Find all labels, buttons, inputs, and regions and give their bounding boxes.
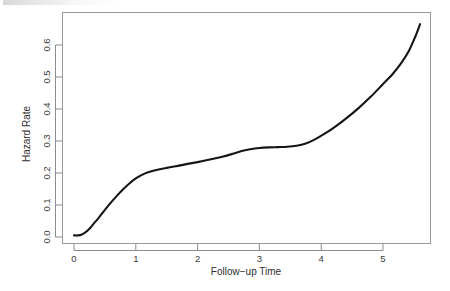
x-tick-label: 3	[257, 253, 262, 264]
plot-frame	[63, 13, 431, 244]
x-tick-label: 1	[133, 253, 138, 264]
y-axis-title: Hazard Rate	[21, 105, 32, 162]
y-tick-label: 0.2	[41, 166, 52, 179]
x-tick-label: 0	[71, 253, 76, 264]
x-tick-label: 4	[319, 253, 324, 264]
x-axis-title: Follow−up Time	[211, 266, 282, 277]
y-axis: 0.00.10.20.30.40.50.6	[41, 38, 63, 243]
x-tick-labels: 012345	[71, 253, 385, 264]
y-tick-marks	[56, 45, 63, 237]
y-tick-label: 0.1	[41, 198, 52, 211]
y-tick-label: 0.0	[41, 230, 52, 243]
y-tick-label: 0.6	[41, 38, 52, 51]
y-tick-label: 0.5	[41, 70, 52, 83]
x-tick-label: 2	[195, 253, 200, 264]
y-tick-label: 0.4	[41, 102, 52, 115]
y-tick-labels: 0.00.10.20.30.40.50.6	[41, 38, 52, 243]
plot-canvas: 0.00.10.20.30.40.50.6 012345 Hazard Rate…	[0, 0, 450, 291]
x-tick-label: 5	[380, 253, 385, 264]
hazard-rate-chart: 0.00.10.20.30.40.50.6 012345 Hazard Rate…	[0, 0, 450, 291]
hazard-rate-curve	[74, 24, 420, 235]
y-tick-label: 0.3	[41, 134, 52, 147]
x-tick-marks	[74, 244, 383, 251]
x-axis: 012345	[71, 244, 385, 265]
